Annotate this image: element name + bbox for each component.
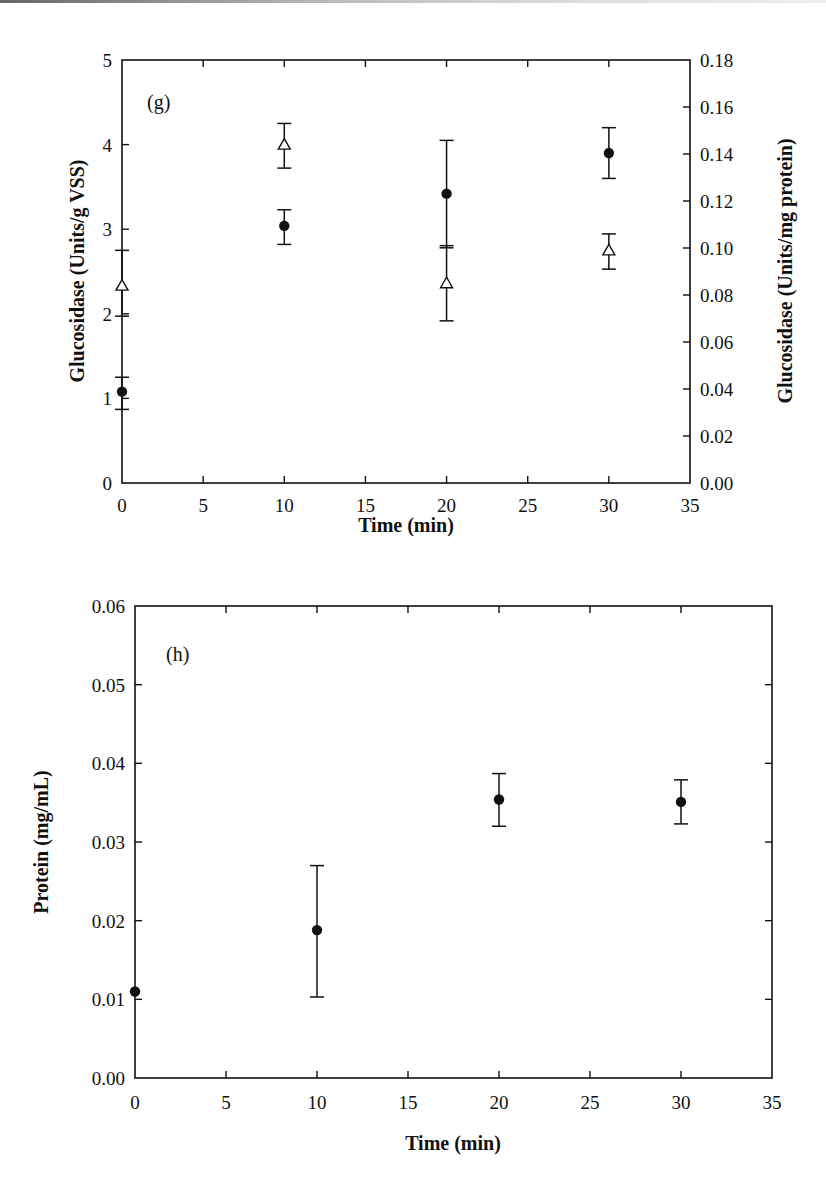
x-tick-label: 15 <box>399 1092 418 1113</box>
y2-tick-label: 0.00 <box>700 473 733 494</box>
y-tick-label: 4 <box>103 135 113 156</box>
panel-label-h: (h) <box>166 643 189 666</box>
figure-canvas: (g) 05101520253035 012345 0.000.020.040.… <box>0 0 826 1203</box>
y2-axis-title-g: Glucosidase (Units/mg protein) <box>774 138 797 403</box>
y-tick-label: 3 <box>103 219 113 240</box>
y-tick-label: 0.02 <box>92 911 125 932</box>
y2-tick-label: 0.18 <box>700 50 733 71</box>
y-axis-title-g: Glucosidase (Units/g VSS) <box>66 159 89 382</box>
data-point-circle <box>494 794 504 804</box>
y2-tick-label: 0.16 <box>700 97 733 118</box>
y-tick-label: 2 <box>103 304 113 325</box>
y-tick-label: 0.00 <box>92 1068 125 1089</box>
y-tick-label: 0.05 <box>92 675 125 696</box>
x-tick-label: 30 <box>599 495 618 516</box>
y2-tick-label: 0.08 <box>700 285 733 306</box>
x-tick-label: 35 <box>763 1092 782 1113</box>
data-point-triangle <box>116 280 128 291</box>
x-tick-label: 0 <box>117 495 127 516</box>
x-tick-label: 10 <box>308 1092 327 1113</box>
panel-label-g: (g) <box>147 91 170 114</box>
x-tick-label: 25 <box>518 495 537 516</box>
x-axis-title-h: Time (min) <box>405 1132 501 1155</box>
x-tick-label: 20 <box>437 495 456 516</box>
chart-panel-g: (g) 05101520253035 012345 0.000.020.040.… <box>66 50 797 537</box>
y2-tick-label: 0.06 <box>700 332 733 353</box>
data-point-triangle <box>441 277 453 288</box>
x-tick-label: 30 <box>672 1092 691 1113</box>
x-tick-label: 10 <box>275 495 294 516</box>
x-tick-label: 35 <box>681 495 700 516</box>
y-axis-ticks-g: 012345 <box>103 50 130 494</box>
y2-tick-label: 0.04 <box>700 379 734 400</box>
y-tick-label: 1 <box>103 388 113 409</box>
data-point-circle <box>604 148 614 158</box>
data-point-triangle <box>603 244 615 255</box>
y-tick-label: 0 <box>103 473 113 494</box>
y-tick-label: 0.01 <box>92 989 125 1010</box>
y-tick-label: 5 <box>103 50 113 71</box>
plot-frame-h <box>135 606 772 1078</box>
y2-tick-label: 0.10 <box>700 238 733 259</box>
data-point-circle <box>130 986 140 996</box>
y-tick-label: 0.06 <box>92 596 125 617</box>
data-point-circle <box>676 797 686 807</box>
x-tick-label: 0 <box>130 1092 140 1113</box>
y2-tick-label: 0.14 <box>700 144 734 165</box>
y-tick-label: 0.03 <box>92 832 125 853</box>
plot-frame-g <box>122 60 690 483</box>
y-axis-title-h: Protein (mg/mL) <box>30 770 53 914</box>
x-axis-ticks-h: 05101520253035 <box>130 606 781 1113</box>
x-tick-label: 20 <box>490 1092 509 1113</box>
data-point-circle <box>441 188 451 198</box>
y2-tick-label: 0.02 <box>700 426 733 447</box>
y-tick-label: 0.04 <box>92 753 126 774</box>
x-tick-label: 5 <box>198 495 208 516</box>
y2-tick-label: 0.12 <box>700 191 733 212</box>
y-axis-ticks-h: 0.000.010.020.030.040.050.06 <box>92 596 772 1089</box>
data-point-circle <box>117 386 127 396</box>
data-marks-g <box>115 123 616 409</box>
x-axis-title-g: Time (min) <box>358 514 454 537</box>
data-point-circle <box>279 221 289 231</box>
chart-panel-h: (h) 05101520253035 0.000.010.020.030.040… <box>30 596 782 1155</box>
data-point-triangle <box>278 139 290 150</box>
data-marks-h <box>130 774 688 997</box>
x-tick-label: 15 <box>356 495 375 516</box>
data-point-circle <box>312 925 322 935</box>
x-tick-label: 25 <box>581 1092 600 1113</box>
x-tick-label: 5 <box>221 1092 231 1113</box>
